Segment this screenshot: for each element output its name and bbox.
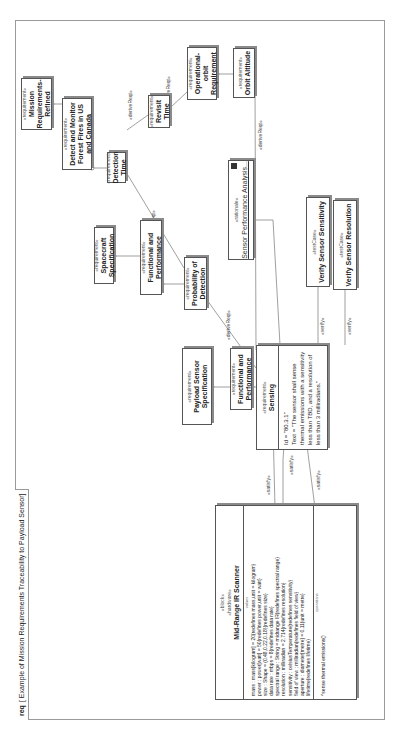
block-operations: ^sense thermal emissions()	[320, 506, 327, 699]
block-mid-range-ir-scanner[interactable]: «block» «hardware» Mid-Range IR Scanner …	[215, 505, 357, 700]
requirement-detection-time[interactable]: «requirement» Detection Time	[107, 152, 126, 183]
testcase-verify-sensitivity[interactable]: «testCase» Verify Sensor Sensitivity	[306, 197, 330, 287]
verify-label-sensitivity: «verify»	[319, 317, 325, 335]
requirement-spacecraft-spec[interactable]: «requirement» Spacecraft Specification	[94, 227, 114, 284]
derive-label-sensing: «deriveReqt»	[225, 310, 231, 340]
verify-label-resolution: «verify»	[346, 317, 352, 335]
derive-label-orbit: «deriveReqt»	[257, 120, 263, 150]
block-attributes: mass : mass[kilogram] = 20{redefines mas…	[250, 506, 314, 699]
sensing-text: Text = "The sensor shall sense thermal e…	[290, 350, 322, 445]
satisfy-label-2: «satisfy»	[288, 455, 294, 475]
requirement-operational-orbit[interactable]: «requirement» Operational-orbit Requirem…	[187, 47, 217, 100]
requirement-revisit-time[interactable]: «requirement» Revisit Time	[148, 95, 170, 128]
requirement-probability-detection[interactable]: «requirement» Probability of Detection	[184, 257, 207, 310]
requirement-orbit-altitude[interactable]: «requirement» Orbit Altitude	[233, 48, 255, 98]
requirement-payload-sensor-spec[interactable]: «requirement» Payload Sensor Specificati…	[182, 348, 212, 425]
requirement-functional-performance-top[interactable]: «requirement» Functional and Performance	[140, 220, 162, 295]
testcase-verify-resolution[interactable]: «testCase» Verify Sensor Resolution	[333, 200, 357, 290]
requirement-functional-performance-low[interactable]: «requirement» Functional and Performance	[230, 348, 252, 410]
requirement-sensing[interactable]: «requirement» Sensing Id = "80.3.1" Text…	[256, 345, 328, 450]
derive-label-revisit: «deriveReqt»	[127, 90, 133, 120]
rationale-sensor-performance[interactable]: «rationale» Sensor Performance Analysis.…	[228, 160, 254, 260]
satisfy-label-1: «satisfy»	[265, 475, 271, 495]
document-icon	[231, 163, 237, 169]
requirements-diagram: req[ Example of Mission Requirements Tra…	[15, 20, 385, 720]
sensing-id: Id = "80.3.1"	[282, 350, 290, 445]
requirement-detect-monitor[interactable]: «requirement» Detect and Monitor Forest …	[62, 98, 92, 170]
satisfy-label-3: «satisfy»	[315, 470, 321, 490]
requirement-mission-refined[interactable]: «requirement» Mission Requirements-Refin…	[21, 78, 52, 130]
